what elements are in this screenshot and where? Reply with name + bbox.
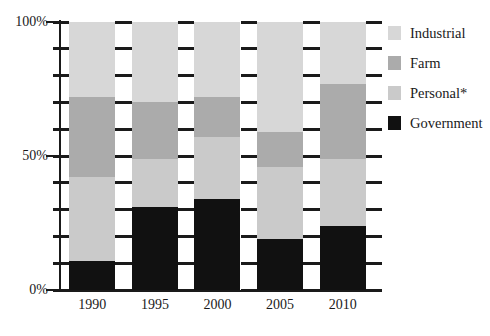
legend-item-government[interactable]: Government <box>388 108 488 138</box>
gridline-tick <box>241 101 258 104</box>
gridline-tick <box>115 181 132 184</box>
x-tick-label-2005: 2005 <box>249 298 312 312</box>
bar-segment-farm <box>132 102 178 158</box>
gridline-tick <box>366 21 382 24</box>
gridline-tick <box>303 74 320 77</box>
gridline-tick <box>178 155 195 158</box>
gridline-tick <box>241 21 258 24</box>
gridline-tick <box>366 289 382 292</box>
gridline-tick <box>241 235 258 238</box>
gridline-tick <box>241 181 258 184</box>
y-tick-label: 100% <box>15 15 48 29</box>
gridline-tick <box>303 47 320 50</box>
x-tick-label-2000: 2000 <box>186 298 249 312</box>
bar-2005 <box>257 22 303 290</box>
gridline-tick <box>366 47 382 50</box>
gridline-tick <box>241 74 258 77</box>
gridline-tick <box>303 21 320 24</box>
gridline-tick <box>178 181 195 184</box>
bar-2010 <box>320 22 366 290</box>
gridline-tick <box>303 235 320 238</box>
legend-item-industrial[interactable]: Industrial <box>388 18 488 48</box>
gridline-tick <box>303 181 320 184</box>
bar-segment-government <box>132 207 178 290</box>
gridline-tick <box>178 128 195 131</box>
legend-swatch-icon <box>388 86 401 100</box>
x-axis-line <box>59 290 374 292</box>
legend-label: Industrial <box>410 26 466 41</box>
gridline-tick <box>53 74 69 77</box>
bar-segment-personal <box>320 159 366 226</box>
bar-segment-personal <box>194 137 240 199</box>
bar-1990 <box>69 22 115 290</box>
y-tick-mark <box>46 289 59 291</box>
gridline-tick <box>241 128 258 131</box>
gridline-tick <box>53 128 69 131</box>
y-tick-label: 50% <box>22 149 48 163</box>
gridline-tick <box>178 235 195 238</box>
gridline-tick <box>366 262 382 265</box>
gridline-tick <box>115 21 132 24</box>
gridline-tick <box>115 235 132 238</box>
gridline-tick <box>178 208 195 211</box>
legend-item-farm[interactable]: Farm <box>388 48 488 78</box>
gridline-tick <box>366 74 382 77</box>
gridline-tick <box>115 208 132 211</box>
gridline-tick <box>366 208 382 211</box>
gridline-tick <box>303 101 320 104</box>
y-tick-mark <box>46 155 59 157</box>
gridline-tick <box>178 74 195 77</box>
gridline-tick <box>303 155 320 158</box>
x-tick-label-1995: 1995 <box>124 298 187 312</box>
bar-segment-personal <box>132 159 178 207</box>
gridline-tick <box>366 235 382 238</box>
legend-label: Government <box>410 116 482 131</box>
gridline-tick <box>53 101 69 104</box>
gridline-tick <box>303 208 320 211</box>
gridline-tick <box>366 155 382 158</box>
bar-segment-government <box>194 199 240 290</box>
bar-segment-industrial <box>320 22 366 84</box>
gridline-tick <box>115 101 132 104</box>
legend-swatch-icon <box>388 56 401 70</box>
gridline-tick <box>115 155 132 158</box>
gridline-tick <box>241 262 258 265</box>
gridline-tick <box>53 262 69 265</box>
gridline-tick <box>178 289 195 292</box>
y-tick-mark <box>46 21 59 23</box>
bar-segment-farm <box>69 97 115 177</box>
gridline-tick <box>115 47 132 50</box>
bar-1995 <box>132 22 178 290</box>
legend-swatch-icon <box>388 116 401 130</box>
x-tick-label-1990: 1990 <box>61 298 124 312</box>
gridline-tick <box>178 47 195 50</box>
bar-segment-industrial <box>69 22 115 97</box>
plot-area <box>61 22 374 290</box>
bar-segment-personal <box>257 167 303 239</box>
legend-label: Farm <box>410 56 441 71</box>
legend-item-personal[interactable]: Personal* <box>388 78 488 108</box>
gridline-tick <box>241 47 258 50</box>
bar-segment-industrial <box>194 22 240 97</box>
bar-segment-industrial <box>132 22 178 102</box>
gridline-tick <box>53 235 69 238</box>
gridline-tick <box>366 181 382 184</box>
gridline-tick <box>178 21 195 24</box>
bar-segment-industrial <box>257 22 303 132</box>
x-axis: 19901995200020052010 <box>61 298 374 322</box>
y-axis: 0%50%100% <box>0 0 52 336</box>
gridline-tick <box>178 101 195 104</box>
bar-2000 <box>194 22 240 290</box>
gridline-tick <box>241 155 258 158</box>
gridline-tick <box>303 289 320 292</box>
legend-swatch-icon <box>388 26 401 40</box>
bar-segment-government <box>320 226 366 290</box>
gridline-tick <box>241 289 258 292</box>
bar-segment-farm <box>194 97 240 137</box>
gridline-tick <box>53 208 69 211</box>
gridline-tick <box>241 208 258 211</box>
stacked-bar-chart: 0%50%100% 19901995200020052010 Industria… <box>0 0 490 336</box>
gridline-tick <box>53 181 69 184</box>
gridline-tick <box>303 128 320 131</box>
bar-segment-government <box>69 261 115 290</box>
